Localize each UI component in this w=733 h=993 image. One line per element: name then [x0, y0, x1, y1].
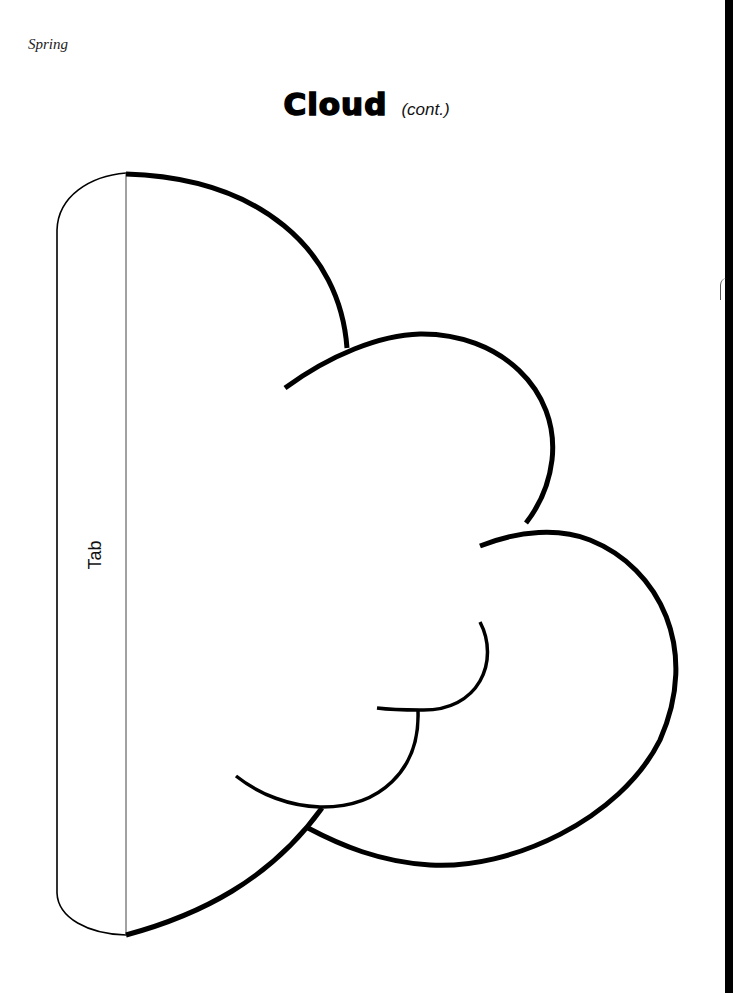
cloud-lobe-top — [126, 174, 347, 348]
scan-edge — [725, 0, 733, 993]
scan-edge-notch — [720, 278, 727, 300]
worksheet-page: Spring Cloud (cont.) Tab — [0, 0, 733, 993]
tab-label: Tab — [85, 540, 105, 569]
cloud-template: Tab — [0, 0, 733, 993]
cloud-lobe-bottom — [126, 808, 322, 935]
cloud-lobe-right — [308, 532, 676, 865]
inner-bump-upper — [377, 622, 488, 710]
inner-bump-lower — [236, 711, 418, 807]
cloud-lobe-middle — [285, 334, 553, 523]
